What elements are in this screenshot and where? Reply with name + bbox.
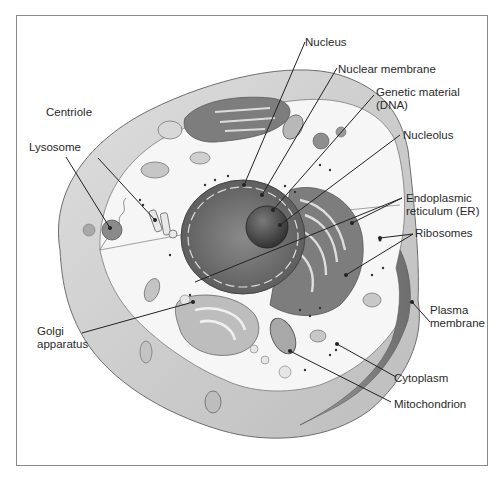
label-mitochondrion: Mitochondrion <box>394 398 466 411</box>
lysosome <box>102 220 122 240</box>
label-genetic-material: Genetic material (DNA) <box>376 86 460 112</box>
label-lysosome: Lysosome <box>29 141 81 154</box>
label-ribosomes: Ribosomes <box>415 227 473 240</box>
label-cytoplasm: Cytoplasm <box>394 372 448 385</box>
label-nucleus: Nucleus <box>305 36 347 49</box>
label-centriole: Centriole <box>46 106 92 119</box>
label-plasma-membrane: Plasma membrane <box>430 304 485 330</box>
label-nucleolus: Nucleolus <box>403 129 454 142</box>
nucleolus <box>246 206 288 248</box>
cell-diagram: Nucleus Nuclear membrane Genetic materia… <box>0 0 502 488</box>
label-endoplasmic-reticulum: Endoplasmic reticulum (ER) <box>406 192 479 218</box>
label-nuclear-membrane: Nuclear membrane <box>338 63 436 76</box>
nucleus <box>181 180 305 294</box>
label-golgi-apparatus: Golgi apparatus <box>37 325 88 351</box>
